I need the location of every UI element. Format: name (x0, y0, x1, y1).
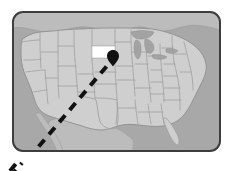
map-figure: United States map with highlighted state… (0, 0, 233, 171)
map-viewport (13, 12, 220, 171)
region-contiguous-usa (21, 28, 206, 130)
lake-michigan (134, 40, 141, 59)
map-svg: United States map with highlighted state… (0, 0, 233, 171)
